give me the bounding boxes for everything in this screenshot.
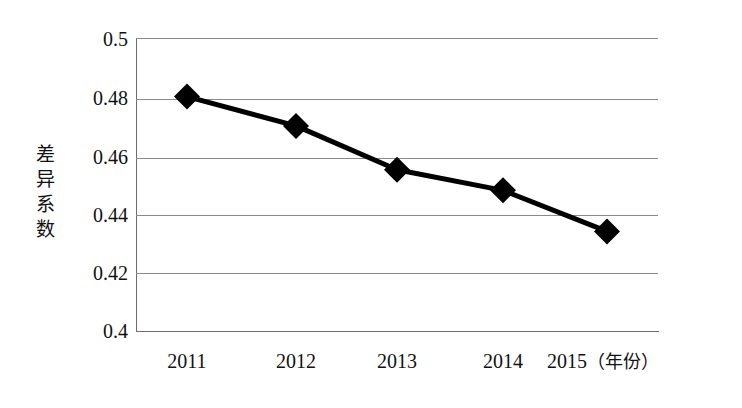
y-tick-label: 0.44 bbox=[58, 205, 128, 225]
y-tick-label: 0.5 bbox=[58, 29, 128, 49]
y-tick-label: 0.48 bbox=[58, 88, 128, 108]
y-tick-label: 0.42 bbox=[58, 263, 128, 283]
x-tick-label-last: 2015（年份） bbox=[547, 349, 742, 374]
y-tick-label: 0.46 bbox=[58, 147, 128, 167]
y-axis-title: 差 异 系 数 bbox=[30, 142, 60, 242]
x-tick-label: 2013 bbox=[337, 349, 457, 373]
x-tick-label: 2015 bbox=[547, 350, 587, 372]
y-axis-tick-labels: 0.5 0.48 0.46 0.44 0.42 0.4 bbox=[58, 0, 128, 408]
x-axis-tick-labels: 2011 2012 2013 2014 2015（年份） bbox=[0, 349, 742, 379]
gridline bbox=[136, 158, 658, 159]
line-chart: 差 异 系 数 0.5 0.48 0.46 0.44 0.42 0.4 2011… bbox=[0, 0, 742, 408]
x-tick-label: 2011 bbox=[127, 349, 247, 373]
x-tick-label: 2014 bbox=[443, 349, 563, 373]
x-axis-unit-label: （年份） bbox=[587, 351, 659, 372]
gridline bbox=[136, 38, 658, 39]
gridline bbox=[136, 99, 658, 100]
gridline bbox=[136, 273, 658, 274]
gridline bbox=[136, 215, 658, 216]
x-axis-line bbox=[136, 331, 659, 332]
y-tick-label: 0.4 bbox=[58, 321, 128, 341]
plot-area bbox=[136, 38, 658, 331]
